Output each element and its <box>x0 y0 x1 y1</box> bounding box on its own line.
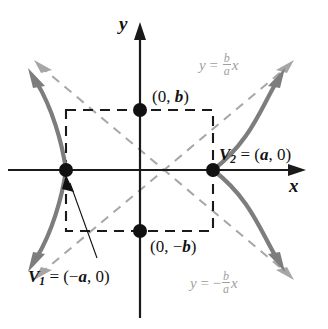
asymptote-negative-eq: = <box>197 275 213 291</box>
vertex-right-equals: = ( <box>236 145 260 164</box>
asymptote-positive-eq: = <box>206 57 222 73</box>
asymptote-negative-fraction: ba <box>222 270 230 295</box>
x-axis-label: x <box>289 176 299 195</box>
vertex-left-tail: , 0) <box>87 267 110 286</box>
vertex-right-label: V2 = (a, 0) <box>219 146 291 166</box>
asymptote-positive-label: y = bax <box>199 52 238 77</box>
asymptote-positive-lhs: y <box>199 57 206 73</box>
covertex-bottom-prefix: (0, − <box>150 237 182 256</box>
covertex-top-prefix: (0, <box>152 87 175 106</box>
asymptote-negative-lhs: y <box>190 275 197 291</box>
vertex-left-var: V <box>28 267 39 286</box>
asymptote-positive-var: x <box>232 57 239 73</box>
asymptote-negative-denominator: a <box>222 283 230 295</box>
vertex-right-tail: , 0) <box>268 145 291 164</box>
vertex-right-dot <box>206 163 220 177</box>
asymptote-positive-fraction: ba <box>223 52 231 77</box>
vertex-left-dot <box>59 163 73 177</box>
asymptote-negative-var: x <box>231 275 238 291</box>
covertex-bottom-var: b <box>182 237 191 256</box>
vertex-left-coord: a <box>78 267 87 286</box>
covertex-bottom-label: (0, −b) <box>150 238 196 255</box>
x-axis <box>8 164 306 176</box>
covertex-bottom-suffix: ) <box>191 237 197 256</box>
asymptote-negative-sign: − <box>213 275 221 291</box>
covertex-top-var: b <box>175 87 184 106</box>
vertex-left-equals: = (− <box>45 267 78 286</box>
asymptote-negative-label: y = −bax <box>190 270 238 295</box>
vertex-left-label: V1 = (−a, 0) <box>28 268 110 288</box>
hyperbola-figure: y x (0, b) (0, −b) V2 = (a, 0) V1 = (−a,… <box>0 0 328 329</box>
covertex-top-dot <box>133 103 147 117</box>
y-axis-label: y <box>119 14 127 33</box>
asymptote-positive-numerator: b <box>223 52 231 65</box>
vertex-left-leader-line <box>62 175 97 258</box>
covertex-top-suffix: ) <box>183 87 189 106</box>
covertex-top-label: (0, b) <box>152 88 189 105</box>
vertex-right-var: V <box>219 145 230 164</box>
asymptote-positive-denominator: a <box>223 65 231 77</box>
covertex-bottom-dot <box>133 224 147 238</box>
asymptote-negative-numerator: b <box>222 270 230 283</box>
